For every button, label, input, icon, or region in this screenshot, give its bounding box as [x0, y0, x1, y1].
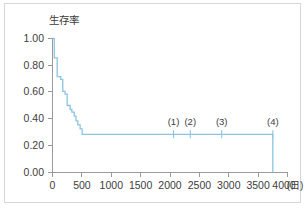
- censor-label-4: (4): [267, 116, 279, 127]
- x-tick-label-4: 1500: [129, 179, 153, 191]
- x-axis-ticks: [53, 173, 288, 178]
- y-tick-label-5: 0.20: [24, 139, 45, 151]
- x-tick-label-3: 1000: [100, 179, 124, 191]
- censor-label-group: (1)(2)(3)(4): [168, 116, 279, 127]
- x-tick-label-7: 3000: [217, 179, 241, 191]
- y-tick-label-1: 1.00: [24, 32, 45, 44]
- chart-svg: 生存率 1.00 0.80 0.60 0.40 0.20 0.00 0 500 …: [0, 0, 307, 209]
- x-axis-unit-label: (日): [287, 180, 304, 191]
- censor-label-2: (2): [184, 116, 196, 127]
- x-tick-label-2: 500: [73, 179, 91, 191]
- y-tick-label-6: 0.00: [24, 166, 45, 178]
- y-tick-label-3: 0.60: [24, 85, 45, 97]
- y-axis-ticks: [48, 39, 53, 173]
- x-tick-label-8: 3500: [246, 179, 270, 191]
- x-tick-label-6: 2500: [188, 179, 212, 191]
- y-axis-title: 生存率: [49, 14, 79, 26]
- censor-label-3: (3): [216, 116, 228, 127]
- x-tick-label-5: 2000: [158, 179, 182, 191]
- survival-curve-chart: 生存率 1.00 0.80 0.60 0.40 0.20 0.00 0 500 …: [0, 0, 307, 209]
- censor-label-1: (1): [168, 116, 180, 127]
- y-tick-label-2: 0.80: [24, 59, 45, 71]
- y-tick-label-4: 0.40: [24, 112, 45, 124]
- x-tick-label-1: 0: [50, 179, 56, 191]
- survival-step-curve: [53, 39, 273, 173]
